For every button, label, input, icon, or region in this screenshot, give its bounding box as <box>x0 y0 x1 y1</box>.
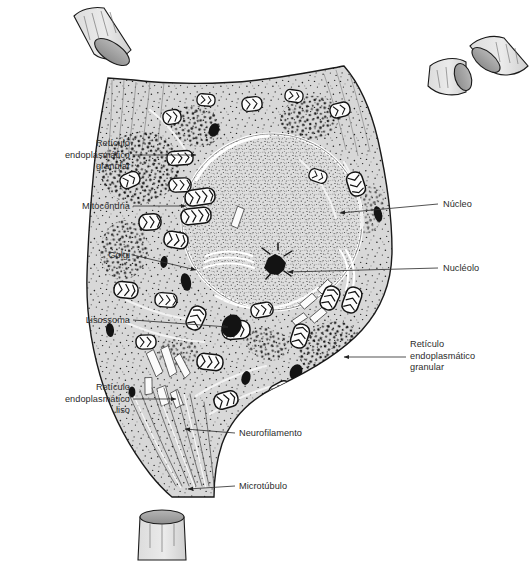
axonio-seccionado <box>138 510 186 560</box>
cut-face <box>140 510 184 524</box>
neuron-cell-diagram <box>0 0 531 566</box>
